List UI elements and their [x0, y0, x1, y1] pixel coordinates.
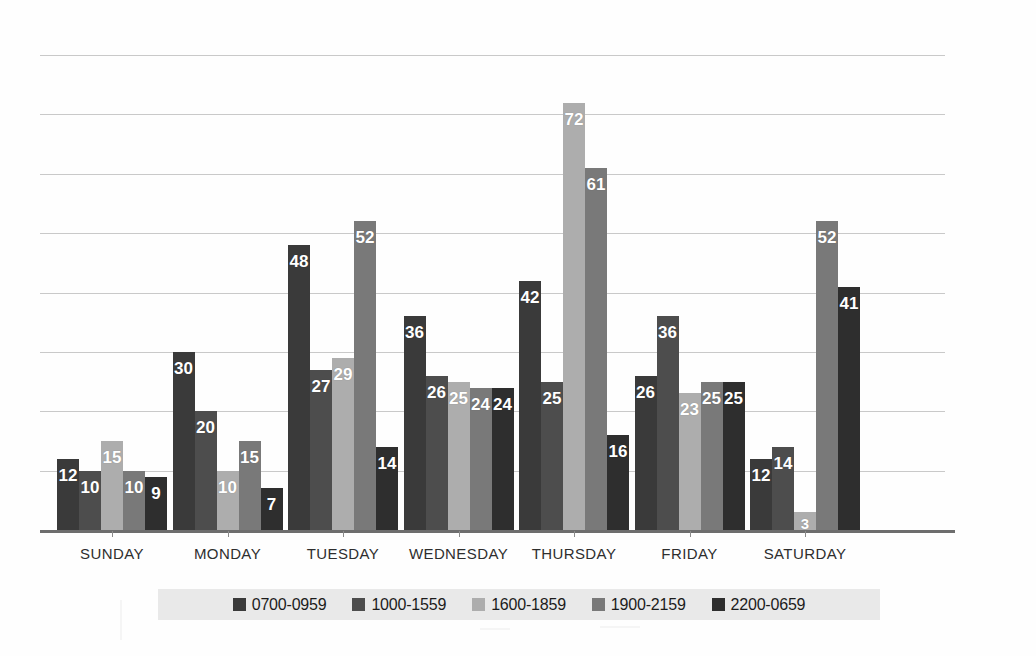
bar-value-label: 52	[356, 229, 375, 246]
legend-label: 0700-0959	[252, 596, 327, 614]
bar: 9	[145, 477, 167, 530]
bar: 14	[772, 447, 794, 530]
bar: 41	[838, 287, 860, 530]
legend-swatch-icon	[233, 598, 246, 611]
x-axis-tick	[690, 531, 691, 537]
bar-value-label: 72	[565, 111, 584, 128]
bar: 15	[239, 441, 261, 530]
bar: 7	[261, 488, 283, 530]
bar-value-label: 20	[196, 419, 215, 436]
bar: 48	[288, 245, 310, 530]
bar-value-label: 10	[81, 479, 100, 496]
legend-item[interactable]: 1600-1859	[472, 596, 566, 614]
bar: 12	[750, 459, 772, 530]
bar-value-label: 10	[218, 479, 237, 496]
bar-value-label: 14	[774, 455, 793, 472]
bar: 10	[123, 471, 145, 530]
bar-value-label: 3	[801, 516, 809, 531]
bar-value-label: 23	[680, 401, 699, 418]
bar-value-label: 16	[609, 443, 628, 460]
bar-value-label: 27	[312, 378, 331, 395]
x-axis-label: SUNDAY	[80, 545, 144, 562]
bar-value-label: 12	[752, 467, 771, 484]
x-axis-tick	[343, 531, 344, 537]
bar: 36	[657, 316, 679, 530]
bar-value-label: 7	[267, 496, 276, 513]
bar-value-label: 25	[449, 390, 468, 407]
bar-value-label: 30	[174, 360, 193, 377]
x-axis-label: WEDNESDAY	[409, 545, 508, 562]
legend-label: 1600-1859	[491, 596, 566, 614]
x-axis-label: MONDAY	[194, 545, 261, 562]
bar: 25	[448, 382, 470, 530]
bar-value-label: 15	[240, 449, 259, 466]
bar: 25	[723, 382, 745, 530]
bar: 24	[492, 388, 514, 531]
x-axis-tick	[112, 531, 113, 537]
x-axis-line	[40, 530, 955, 533]
bar: 72	[563, 103, 585, 531]
bar-value-label: 26	[636, 384, 655, 401]
bar-value-label: 26	[427, 384, 446, 401]
bar: 3	[794, 512, 816, 530]
bar-value-label: 10	[125, 479, 144, 496]
bar: 52	[354, 221, 376, 530]
bar: 42	[519, 281, 541, 530]
legend-item[interactable]: 2200-0659	[712, 596, 806, 614]
x-axis-tick	[805, 531, 806, 537]
bar-value-label: 42	[521, 289, 540, 306]
bar: 23	[679, 393, 701, 530]
legend-swatch-icon	[592, 598, 605, 611]
legend-item[interactable]: 0700-0959	[233, 596, 327, 614]
x-axis-label: THURSDAY	[532, 545, 617, 562]
bar-value-label: 25	[702, 390, 721, 407]
bar: 10	[217, 471, 239, 530]
bar: 24	[470, 388, 492, 531]
bar: 61	[585, 168, 607, 530]
bar-series-layer: 1210151093020101574827295214362625242442…	[0, 0, 1036, 656]
bar-value-label: 15	[103, 449, 122, 466]
bar: 36	[404, 316, 426, 530]
legend-swatch-icon	[472, 598, 485, 611]
bar: 29	[332, 358, 354, 530]
bar: 15	[101, 441, 123, 530]
bar: 26	[635, 376, 657, 530]
x-axis-label: SATURDAY	[764, 545, 847, 562]
x-axis-tick	[574, 531, 575, 537]
x-axis-tick	[459, 531, 460, 537]
bar: 27	[310, 370, 332, 530]
legend-label: 1900-2159	[611, 596, 686, 614]
legend-item[interactable]: 1900-2159	[592, 596, 686, 614]
bar-chart: 1210151093020101574827295214362625242442…	[0, 0, 1036, 656]
bar: 30	[173, 352, 195, 530]
x-axis-label: FRIDAY	[661, 545, 717, 562]
bar-value-label: 52	[818, 229, 837, 246]
bar-value-label: 41	[840, 295, 859, 312]
legend: 0700-09591000-15591600-18591900-21592200…	[158, 589, 880, 620]
bar-value-label: 14	[378, 455, 397, 472]
x-axis-label: TUESDAY	[307, 545, 380, 562]
bar-value-label: 36	[405, 324, 424, 341]
x-axis-tick	[228, 531, 229, 537]
bar-value-label: 9	[151, 485, 160, 502]
bar-value-label: 12	[59, 467, 78, 484]
bar: 26	[426, 376, 448, 530]
bar: 25	[701, 382, 723, 530]
legend-label: 1000-1559	[371, 596, 446, 614]
bar-value-label: 48	[290, 253, 309, 270]
bar-value-label: 25	[724, 390, 743, 407]
bar: 14	[376, 447, 398, 530]
bar-value-label: 24	[493, 396, 512, 413]
legend-item[interactable]: 1000-1559	[352, 596, 446, 614]
bar-value-label: 29	[334, 366, 353, 383]
bar-value-label: 25	[543, 390, 562, 407]
bar-value-label: 36	[658, 324, 677, 341]
bar: 16	[607, 435, 629, 530]
bar-value-label: 24	[471, 396, 490, 413]
bar: 10	[79, 471, 101, 530]
bar-value-label: 61	[587, 176, 606, 193]
bar: 25	[541, 382, 563, 530]
bar: 20	[195, 411, 217, 530]
legend-label: 2200-0659	[731, 596, 806, 614]
bar: 52	[816, 221, 838, 530]
